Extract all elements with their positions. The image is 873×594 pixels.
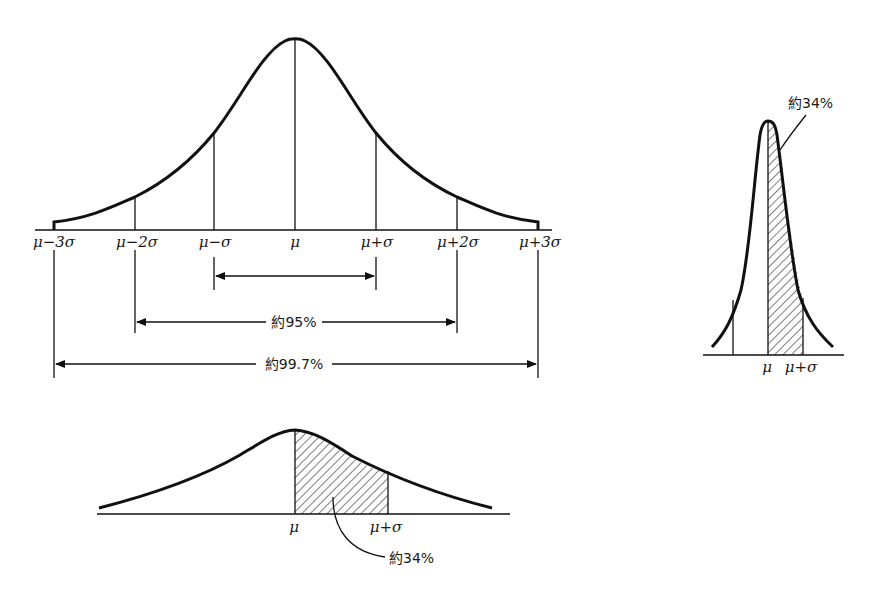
wide-shaded-label: 約34% bbox=[389, 550, 434, 566]
narrow-shaded-label: 約34% bbox=[788, 95, 833, 111]
tick-label-plus-3sigma: μ+3σ bbox=[519, 233, 562, 251]
tick-label-mean: μ bbox=[290, 233, 300, 251]
narrow-shaded-area bbox=[768, 122, 803, 355]
tick-label-plus-1sigma: μ+σ bbox=[361, 233, 394, 251]
tick-label-minus-1sigma: μ−σ bbox=[199, 233, 232, 251]
narrow-tick-label-mean: μ bbox=[762, 358, 772, 376]
tick-label-plus-2sigma: μ+2σ bbox=[437, 233, 480, 251]
wide-normal-curve: μ μ+σ 約34% bbox=[97, 430, 510, 566]
tick-label-minus-2sigma: μ−2σ bbox=[116, 233, 159, 251]
main-normal-curve: μ−3σ μ−2σ μ−σ μ μ+σ μ+2σ μ+3σ 約95% 約99.7… bbox=[33, 39, 562, 378]
main-bell-curve bbox=[54, 39, 538, 230]
wide-tick-label-plus-1sigma: μ+σ bbox=[370, 518, 403, 536]
normal-distribution-diagram: μ−3σ μ−2σ μ−σ μ μ+σ μ+2σ μ+3σ 約95% 約99.7… bbox=[0, 0, 873, 594]
tick-label-minus-3sigma: μ−3σ bbox=[33, 233, 76, 251]
narrow-normal-curve: 約34% μ μ+σ bbox=[703, 95, 844, 376]
wide-tick-label-mean: μ bbox=[289, 518, 299, 536]
narrow-leader-line bbox=[780, 115, 806, 150]
narrow-tick-label-plus-1sigma: μ+σ bbox=[785, 358, 818, 376]
range-1sigma bbox=[214, 257, 376, 290]
wide-shaded-area bbox=[295, 431, 388, 514]
range-3sigma-label: 約99.7% bbox=[265, 356, 323, 372]
range-2sigma: 約95% bbox=[135, 250, 457, 333]
range-2sigma-label: 約95% bbox=[271, 314, 316, 330]
